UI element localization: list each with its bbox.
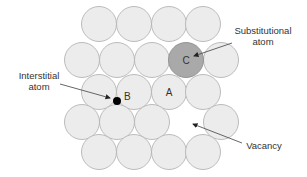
lattice-atom xyxy=(186,75,221,110)
lattice-atom xyxy=(186,7,221,42)
interstitial-label-line2: atom xyxy=(28,81,49,92)
lattice-atom xyxy=(117,75,152,110)
lattice-atom xyxy=(82,135,117,170)
lattice-atom xyxy=(117,135,152,170)
atom-label-a: A xyxy=(166,87,173,98)
lattice-atom xyxy=(117,7,152,42)
atom-lattice xyxy=(65,7,239,170)
lattice-atom xyxy=(135,43,170,78)
lattice-atom xyxy=(186,135,221,170)
point-defects-diagram: C A B Substitutional atom Interstitial a… xyxy=(0,0,307,177)
lattice-atom xyxy=(204,105,239,140)
vacancy-label: Vacancy xyxy=(246,140,282,151)
lattice-atom xyxy=(204,43,239,78)
lattice-atom xyxy=(135,105,170,140)
atom-label-b: B xyxy=(124,91,131,102)
lattice-atom xyxy=(82,7,117,42)
lattice-atom xyxy=(100,105,135,140)
substitutional-label-line2: atom xyxy=(252,36,273,47)
lattice-atom xyxy=(65,43,100,78)
interstitial-label-line1: Interstitial xyxy=(19,70,60,81)
lattice-atom xyxy=(100,43,135,78)
lattice-atom xyxy=(152,7,187,42)
lattice-atom xyxy=(82,75,117,110)
substitutional-label-line1: Substitutional xyxy=(234,25,291,36)
interstitial-atom xyxy=(113,97,121,105)
lattice-atom xyxy=(152,135,187,170)
lattice-atom xyxy=(65,105,100,140)
atom-label-c: C xyxy=(182,55,189,66)
